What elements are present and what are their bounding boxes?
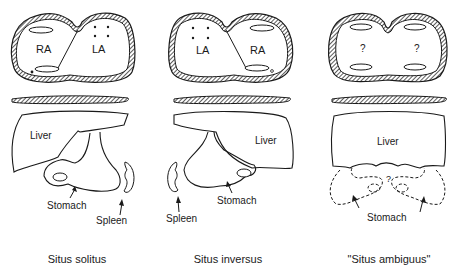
label-stomach: Stomach bbox=[217, 195, 256, 206]
diaphragm bbox=[12, 96, 128, 104]
label-stomach: Stomach bbox=[47, 200, 86, 211]
label-liver: Liver bbox=[255, 135, 277, 146]
situs-diagram: RA LA Liver Stomach Spleen LA RA Liver bbox=[0, 0, 453, 277]
label-ra: RA bbox=[250, 44, 266, 56]
label-la: LA bbox=[196, 44, 210, 56]
panel-situs-solitus: RA LA Liver Stomach Spleen bbox=[11, 13, 134, 226]
liver bbox=[12, 111, 128, 172]
label-stomach: Stomach bbox=[367, 212, 406, 223]
panel-situs-inversus: LA RA Liver Stomach Spleen bbox=[166, 13, 293, 224]
panel-situs-ambiguus: ? ? Liver ? Stomach bbox=[329, 13, 447, 223]
diaphragm bbox=[174, 96, 290, 104]
label-ra: RA bbox=[36, 43, 52, 55]
caption-situs-inversus: Situs inversus bbox=[153, 253, 303, 265]
diaphragm bbox=[332, 96, 446, 104]
label-left-atrium-unknown: ? bbox=[360, 43, 366, 54]
stomach-dashed-right bbox=[392, 168, 445, 204]
caption-situs-ambiguus: "Situs ambiguus" bbox=[314, 253, 453, 265]
spleen bbox=[168, 162, 178, 192]
label-right-atrium-unknown: ? bbox=[414, 43, 420, 54]
label-la: LA bbox=[92, 43, 106, 55]
label-liver: Liver bbox=[377, 136, 399, 147]
label-spleen: Spleen bbox=[96, 215, 127, 226]
spleen bbox=[124, 162, 134, 192]
label-unknown-organ: ? bbox=[386, 174, 391, 184]
caption-situs-solitus: Situs solitus bbox=[2, 253, 152, 265]
label-spleen: Spleen bbox=[166, 213, 197, 224]
label-liver: Liver bbox=[30, 130, 52, 141]
